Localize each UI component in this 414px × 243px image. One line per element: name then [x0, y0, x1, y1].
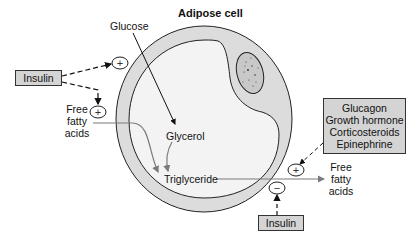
plus-sign: + [293, 164, 299, 176]
hormone-item: Corticosteroids [324, 126, 405, 138]
hormone-item: Growth hormone [324, 114, 405, 126]
insulin-ffa-dashed-arrow [62, 82, 98, 104]
ffa-in-line: Free [64, 103, 90, 115]
ffa-out-line: fatty [328, 173, 354, 185]
hormone-item: Epinephrine [324, 138, 405, 150]
ffa-out-line: Free [328, 161, 354, 173]
triglyceride-label: Triglyceride [164, 173, 218, 185]
ffa-out-line: acids [328, 185, 354, 197]
diagram-title: Adipose cell [178, 7, 243, 19]
ffa-in-line: acids [64, 127, 90, 139]
glucose-label: Glucose [110, 20, 149, 32]
ffa-in-line: fatty [64, 115, 90, 127]
glycerol-label: Glycerol [166, 130, 205, 142]
minus-sign: − [274, 182, 280, 194]
plus-sign: + [117, 57, 123, 69]
ffa-out-label: Free fatty acids [328, 161, 354, 197]
insulin-box-bottom: Insulin [258, 215, 304, 231]
insulin-glucose-dashed-arrow [62, 64, 111, 76]
plus-sign: + [95, 106, 101, 118]
hormone-item: Glucagon [324, 102, 405, 114]
hormones-box: Glucagon Growth hormone Corticosteroids … [323, 98, 406, 154]
ffa-in-label: Free fatty acids [64, 103, 90, 139]
insulin-box-top: Insulin [15, 70, 62, 86]
hormones-dashed-arrow [300, 143, 323, 164]
